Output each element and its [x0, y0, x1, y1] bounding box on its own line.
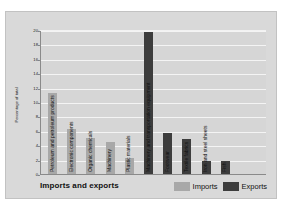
x-axis-category-label: Machinery and transportation equipment: [146, 83, 151, 173]
legend-swatch-imports: [174, 182, 190, 191]
y-tick-label: 12: [33, 86, 38, 90]
x-axis-category-label: Organic chemicals: [88, 131, 93, 172]
plot-area: 02468101214161820 Petroleum and petroleu…: [40, 30, 266, 175]
x-axis-category-label: Textile fabrics: [184, 142, 189, 172]
y-tick-label: 4: [36, 144, 38, 148]
legend-item-exports: Exports: [223, 182, 267, 191]
x-axis-category-label: Fish: [222, 163, 227, 172]
chart-figure: 02468101214161820 Petroleum and petroleu…: [5, 11, 277, 199]
x-axis-category-label: Petroleum and petroleum products: [50, 95, 55, 172]
chart-title: Imports and exports: [40, 181, 119, 190]
y-tick-label: 14: [33, 72, 38, 76]
y-tick-mark: [38, 175, 40, 176]
y-tick-label: 10: [33, 101, 38, 105]
legend-item-imports: Imports: [174, 182, 218, 191]
legend-swatch-exports: [223, 182, 239, 191]
y-tick-label: 16: [33, 58, 38, 62]
legend-label-exports: Exports: [242, 182, 267, 191]
x-axis-category-label: Footwear: [165, 151, 170, 172]
x-axis-category-label: Plastic materials: [126, 136, 131, 172]
bar-group: Petroleum and petroleum productsElectron…: [40, 31, 266, 175]
x-axis-category-label: Electronic components: [69, 121, 74, 172]
x-axis-category-label: Iron and steel sheets: [203, 126, 208, 172]
y-tick-label: 8: [36, 115, 38, 119]
y-tick-label: 20: [33, 29, 38, 33]
y-tick-label: 18: [33, 43, 38, 47]
x-axis-category-label: Machinery: [107, 149, 112, 172]
y-tick-label: 0: [36, 173, 38, 177]
y-tick-label: 6: [36, 130, 38, 134]
y-tick-label: 2: [36, 158, 38, 162]
y-axis-title: Percentage of total: [14, 87, 19, 122]
legend-label-imports: Imports: [193, 182, 218, 191]
chart-legend: Imports Exports: [174, 182, 267, 191]
